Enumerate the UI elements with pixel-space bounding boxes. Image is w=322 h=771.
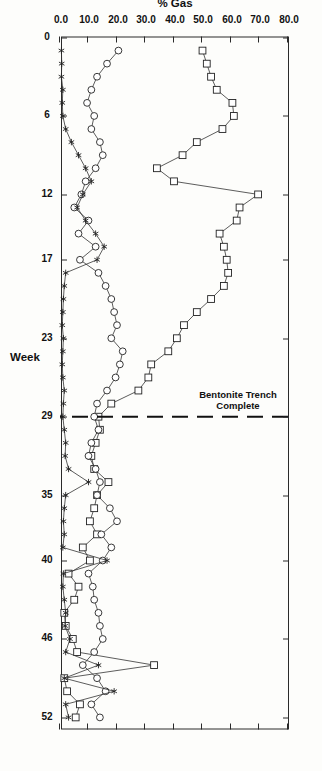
x-tick-top xyxy=(283,416,289,417)
y-tick-right xyxy=(230,723,231,729)
x-tick-label: 35 xyxy=(41,488,52,499)
x-tick-label: 29 xyxy=(41,410,52,421)
series-asterisk xyxy=(59,47,117,720)
y-tick xyxy=(145,36,146,42)
y-tick-right xyxy=(173,723,174,729)
annotation-bentonite-trench: Bentonite TrenchComplete xyxy=(199,388,277,410)
y-tick xyxy=(287,36,288,42)
x-tick-top xyxy=(283,259,289,260)
x-tick xyxy=(61,115,67,116)
series-layer xyxy=(60,37,288,730)
x-tick-top xyxy=(283,194,289,195)
y-axis-title: % Gas xyxy=(157,0,192,8)
series-circle xyxy=(71,47,126,721)
y-tick-label: 40.0 xyxy=(165,14,184,25)
y-tick-right xyxy=(202,723,203,729)
plot-area xyxy=(61,36,289,729)
x-tick-label: 12 xyxy=(41,187,52,198)
x-tick-top xyxy=(283,638,289,639)
x-tick-label: 40 xyxy=(41,554,52,565)
y-tick xyxy=(173,36,174,42)
y-tick-right xyxy=(88,723,89,729)
y-tick-label: 0.0 xyxy=(54,14,68,25)
y-tick xyxy=(88,36,89,42)
x-tick-top xyxy=(283,495,289,496)
x-tick-label: 23 xyxy=(41,331,52,342)
y-tick-label: 80.0 xyxy=(279,14,298,25)
x-tick xyxy=(61,338,67,339)
y-tick-right xyxy=(116,723,117,729)
y-tick xyxy=(202,36,203,42)
chart-figure: Off - Site Gas Recorded 1990 06121723293… xyxy=(0,0,322,771)
x-axis-title: Week xyxy=(10,350,40,362)
x-tick-top xyxy=(283,338,289,339)
x-tick-top xyxy=(283,37,289,38)
y-tick-right xyxy=(145,723,146,729)
x-tick xyxy=(61,37,67,38)
x-tick-label: 0 xyxy=(44,31,50,42)
y-tick-right xyxy=(59,723,60,729)
chart-page: Off - Site Gas Recorded 1990 06121723293… xyxy=(0,0,322,771)
y-tick-label: 60.0 xyxy=(222,14,241,25)
series-square xyxy=(61,47,262,721)
y-tick-label: 70.0 xyxy=(251,14,270,25)
y-tick-label: 30.0 xyxy=(137,14,156,25)
x-tick-top xyxy=(283,717,289,718)
x-tick-label: 6 xyxy=(44,109,50,120)
annotation-line-2: Complete xyxy=(199,399,277,410)
y-tick-label: 10.0 xyxy=(80,14,99,25)
y-tick-label: 20.0 xyxy=(108,14,127,25)
y-tick-label: 50.0 xyxy=(194,14,213,25)
y-tick-right xyxy=(287,723,288,729)
y-tick xyxy=(230,36,231,42)
x-tick xyxy=(61,638,67,639)
x-tick xyxy=(61,416,67,417)
x-tick-top xyxy=(283,115,289,116)
x-tick xyxy=(61,495,67,496)
x-tick-label: 17 xyxy=(41,253,52,264)
x-tick-top xyxy=(283,560,289,561)
x-tick-label: 46 xyxy=(41,632,52,643)
x-tick xyxy=(61,194,67,195)
x-tick xyxy=(61,259,67,260)
x-tick-label: 52 xyxy=(41,710,52,721)
y-tick xyxy=(116,36,117,42)
y-tick-right xyxy=(259,723,260,729)
x-tick xyxy=(61,560,67,561)
x-tick xyxy=(61,717,67,718)
y-tick xyxy=(259,36,260,42)
y-tick xyxy=(59,36,60,42)
annotation-line-1: Bentonite Trench xyxy=(199,388,277,399)
